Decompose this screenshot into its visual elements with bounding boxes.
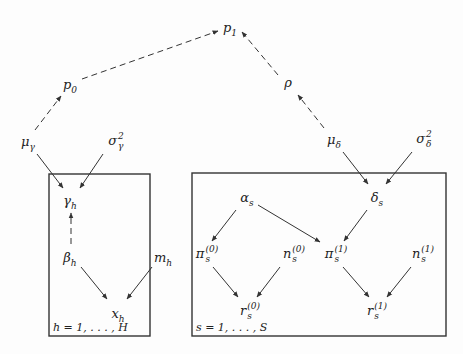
node-base: σ <box>108 133 117 148</box>
node-base: m <box>154 250 166 265</box>
edge-alpha_s-to-pi1_s <box>258 205 320 242</box>
edge-delta_s-to-pi1_s <box>344 210 367 241</box>
node-indices: (0)s <box>292 244 305 264</box>
node-indices: (1)s <box>334 244 347 264</box>
node-alpha_s: αs <box>240 191 253 204</box>
node-subscript: s <box>249 198 254 208</box>
node-subscript: γ <box>30 142 35 152</box>
node-subscript: δ <box>426 139 432 149</box>
edge-sigma2_gamma-to-gamma_h <box>80 154 103 188</box>
node-mu_delta: μδ <box>327 133 341 146</box>
node-sigma2_delta: σ2δ <box>416 129 432 149</box>
node-subscript: h <box>71 258 77 268</box>
node-gamma_h: γh <box>63 194 77 207</box>
node-subscript: δ <box>336 140 341 150</box>
node-x_h: xh <box>111 307 124 320</box>
node-m_h: mh <box>154 251 172 264</box>
node-base: ρ <box>284 75 292 90</box>
plate-plate_s <box>192 173 446 336</box>
node-base: r <box>367 303 373 318</box>
node-superscript: (1) <box>421 244 434 254</box>
node-pi0_s: π(0)s <box>196 244 218 264</box>
node-subscript: s <box>205 254 218 264</box>
node-base: n <box>412 246 420 261</box>
node-base: r <box>240 303 246 318</box>
node-base: δ <box>371 190 379 205</box>
edge-pi0_s-to-r0_s <box>213 267 238 297</box>
node-subscript: s <box>247 311 260 321</box>
node-superscript: 2 <box>426 129 432 139</box>
node-subscript: h <box>166 258 172 268</box>
node-subscript: s <box>421 254 434 264</box>
node-indices: (1)s <box>374 301 387 321</box>
node-p0: p0 <box>63 78 77 91</box>
node-n1_s: n(1)s <box>412 244 434 264</box>
node-indices: 2δ <box>426 129 432 149</box>
node-subscript: s <box>379 198 384 208</box>
node-base: γ <box>63 193 71 208</box>
node-superscript: (0) <box>247 301 260 311</box>
edge-sigma2_delta-to-delta_s <box>386 152 412 184</box>
node-beta_h: βh <box>63 251 76 264</box>
node-indices: (0)s <box>205 244 218 264</box>
node-base: σ <box>416 131 425 146</box>
node-subscript: s <box>292 254 305 264</box>
edge-m_h-to-x_h <box>127 267 152 299</box>
edge-pi1_s-to-r1_s <box>343 267 369 297</box>
node-base: n <box>283 246 291 261</box>
node-superscript: (0) <box>205 244 218 254</box>
node-subscript: s <box>374 311 387 321</box>
node-superscript: (1) <box>334 244 347 254</box>
node-subscript: γ <box>118 141 124 151</box>
node-rho: ρ <box>284 76 292 89</box>
node-superscript: 2 <box>118 131 124 141</box>
node-pi1_s: π(1)s <box>325 244 347 264</box>
edge-beta_h-to-x_h <box>81 267 107 299</box>
edge-mu_delta-to-delta_s <box>343 152 368 184</box>
node-indices: 2γ <box>118 131 124 151</box>
node-base: π <box>325 246 334 261</box>
node-base: β <box>63 250 71 265</box>
node-sigma2_gamma: σ2γ <box>108 131 124 151</box>
node-superscript: (0) <box>292 244 305 254</box>
edges-layer <box>0 0 463 354</box>
node-base: α <box>240 190 249 205</box>
node-mu_gamma: μγ <box>21 135 35 148</box>
node-superscript: (1) <box>374 301 387 311</box>
plate-label: s = 1, . . . , S <box>196 321 267 334</box>
graphical-model-diagram: p1p0ρμγσ2γμδσ2δγhβhmhxhαsδsπ(0)sn(0)sπ(1… <box>0 0 463 354</box>
edge-rho-to-p1 <box>242 32 278 75</box>
edge-mu_gamma-to-gamma_h <box>37 154 63 188</box>
edge-mu_delta-to-rho <box>298 95 324 128</box>
edge-n0_s-to-r0_s <box>257 267 280 297</box>
node-indices: (1)s <box>421 244 434 264</box>
edge-mu_gamma-to-p0 <box>35 96 61 130</box>
node-r0_s: r(0)s <box>240 301 260 321</box>
plate-label: h = 1, . . . , H <box>53 321 128 334</box>
node-delta_s: δs <box>371 191 383 204</box>
node-subscript: 1 <box>231 28 237 38</box>
node-n0_s: n(0)s <box>283 244 305 264</box>
node-subscript: 0 <box>71 85 77 95</box>
node-subscript: s <box>334 254 347 264</box>
node-subscript: h <box>71 201 77 211</box>
edge-n1_s-to-r1_s <box>387 267 411 297</box>
node-indices: (0)s <box>247 301 260 321</box>
edge-p0-to-p1 <box>82 31 218 79</box>
node-p1: p1 <box>223 21 237 34</box>
edge-alpha_s-to-pi0_s <box>212 210 236 241</box>
node-r1_s: r(1)s <box>367 301 387 321</box>
node-base: π <box>196 246 205 261</box>
